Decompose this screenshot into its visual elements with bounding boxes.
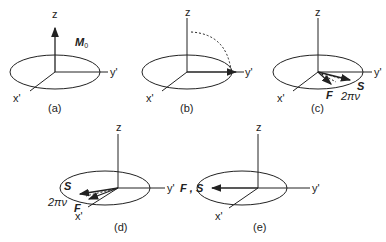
caption-a: (a) — [48, 102, 61, 114]
angle-label: 2πν — [47, 196, 67, 208]
fast-label: F — [74, 202, 81, 214]
z-axis-label: z — [315, 6, 321, 18]
slow-label: S — [64, 180, 72, 192]
caption-b: (b) — [180, 102, 193, 114]
z-axis-label: z — [256, 121, 262, 133]
y-axis-label: y' — [245, 66, 253, 78]
y-axis-label: y' — [110, 66, 118, 78]
x-axis-label: x' — [215, 210, 223, 222]
z-axis-label: z — [52, 8, 58, 20]
z-axis-label: z — [116, 121, 122, 133]
fast-slow-label: F , S — [180, 182, 204, 194]
angle-label: 2πν — [340, 90, 360, 102]
x-axis-label: x' — [277, 92, 285, 104]
caption-d: (d) — [114, 221, 127, 233]
caption-e: (e) — [253, 221, 266, 233]
z-axis-label: z — [185, 6, 191, 18]
panel-a: z y' x' M0 (a) — [10, 8, 118, 114]
nmr-vector-diagram: z y' x' M0 (a) z y' x' (b) z y' x' F S 2… — [0, 0, 386, 242]
x-axis-label: x' — [13, 92, 21, 104]
panel-c: z y' x' F S 2πν (c) — [273, 6, 382, 114]
y-axis-label: y' — [312, 182, 320, 194]
panel-d: z y' x' S 2πν F (d) — [47, 121, 175, 233]
panel-e: z y' x' F , S (e) — [180, 121, 320, 233]
x-axis-label: x' — [146, 92, 154, 104]
y-axis-label: y' — [374, 66, 382, 78]
m0-label: M0 — [75, 36, 88, 49]
caption-c: (c) — [311, 102, 324, 114]
panel-b: z y' x' (b) — [142, 6, 253, 114]
fast-label: F — [326, 89, 333, 101]
y-axis-label: y' — [167, 182, 175, 194]
